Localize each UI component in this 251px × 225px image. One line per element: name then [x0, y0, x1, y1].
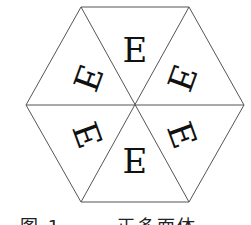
- triangle-glyph-lower-right: E: [159, 116, 205, 153]
- triangle-glyph-lower-left: E: [65, 116, 111, 153]
- triangle-glyph-upper-left: E: [65, 59, 111, 96]
- letter-e-glyph: E: [123, 30, 148, 70]
- triangle-glyph-bottom: E: [123, 140, 148, 180]
- letter-e-glyph: E: [159, 116, 205, 153]
- letter-e-glyph: E: [65, 59, 111, 96]
- triangle-glyph-upper-right: E: [159, 59, 205, 96]
- letter-e-glyph: E: [123, 140, 148, 180]
- letter-e-glyph: E: [159, 59, 205, 96]
- letter-e-glyph: E: [65, 116, 111, 153]
- figure-caption: 图 1 …… 正多面体 ……: [20, 212, 244, 225]
- hexagon-figure: EEEEEE: [0, 0, 251, 225]
- triangle-glyph-top: E: [123, 30, 148, 70]
